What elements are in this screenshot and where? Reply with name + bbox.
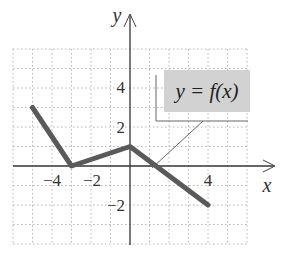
function-label: y = f(x) (173, 79, 238, 103)
function-label-callout: y = f(x) (152, 70, 250, 168)
x-axis-label: x (262, 174, 272, 196)
y-axis-label: y (111, 4, 122, 27)
y-tick-label: −2 (107, 196, 125, 215)
x-tick-label: −2 (83, 171, 101, 190)
x-tick-label: 4 (204, 171, 213, 190)
x-tick-label: −4 (43, 171, 62, 190)
y-tick-label: 4 (117, 78, 126, 97)
function-graph: y = f(x) −4 −2 4 4 2 −2 x y (0, 0, 302, 255)
y-tick-label: 2 (117, 118, 126, 137)
callout-leader-line (152, 121, 203, 168)
